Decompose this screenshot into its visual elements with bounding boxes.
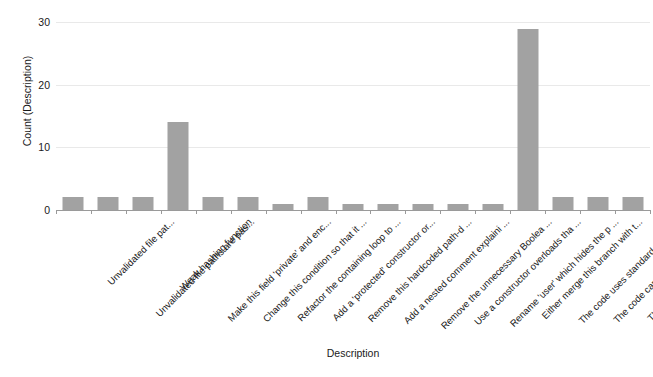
bar[interactable] [308, 197, 329, 210]
y-tick-label: 30 [38, 16, 50, 28]
x-tick-mark [580, 210, 581, 214]
x-axis-title: Description [56, 347, 650, 359]
x-tick-mark [440, 210, 441, 214]
bar-slot [510, 16, 545, 210]
y-tick-label: 10 [38, 141, 50, 153]
x-tick-label-wrapper: The compiler is being instructe ... [645, 216, 653, 323]
bar-slot [475, 16, 510, 210]
bar-slot [580, 16, 615, 210]
x-tick-mark [405, 210, 406, 214]
x-tick-mark [545, 210, 546, 214]
bar[interactable] [517, 29, 538, 210]
x-tick-mark [126, 210, 127, 214]
x-tick-mark [475, 210, 476, 214]
y-axis-title: Count (Description) [21, 11, 33, 191]
bar-slot [161, 16, 196, 210]
bar[interactable] [133, 197, 154, 210]
x-tick-mark [336, 210, 337, 214]
bar-slot [545, 16, 580, 210]
bar[interactable] [203, 197, 224, 210]
bar-slot [266, 16, 301, 210]
x-tick-mark [266, 210, 267, 214]
x-axis-tick-labels: Unvalidated file pat...Unvalidated file … [56, 216, 650, 346]
bar-slot [405, 16, 440, 210]
bar-slot [615, 16, 650, 210]
bar[interactable] [63, 197, 84, 210]
bars-layer [56, 16, 650, 210]
x-tick-mark [231, 210, 232, 214]
x-tick-label: Unvalidated file pat... [106, 216, 177, 287]
x-tick-label-wrapper: Weak hashing function [178, 216, 254, 292]
bar-slot [126, 16, 161, 210]
x-tick-mark [650, 210, 651, 214]
x-tick-mark [56, 210, 57, 214]
bar[interactable] [168, 122, 189, 210]
bar-slot [91, 16, 126, 210]
x-tick-mark [301, 210, 302, 214]
x-axis-tick-marks [56, 210, 650, 215]
x-tick-label-wrapper: Unvalidated file pat... [106, 216, 177, 287]
bar-slot [56, 16, 91, 210]
bar-slot [301, 16, 336, 210]
y-tick-label: 0 [44, 204, 50, 216]
bar[interactable] [98, 197, 119, 210]
x-tick-mark [510, 210, 511, 214]
x-tick-label: Weak hashing function [178, 216, 254, 292]
bar[interactable] [587, 197, 608, 210]
bar[interactable] [552, 197, 573, 210]
bar[interactable] [238, 197, 259, 210]
bar-chart: Count (Description) 0102030 Unvalidated … [0, 0, 653, 377]
x-tick-mark [370, 210, 371, 214]
bar-slot [336, 16, 371, 210]
bar-slot [370, 16, 405, 210]
bar[interactable] [622, 197, 643, 210]
bar-slot [440, 16, 475, 210]
x-tick-label: The compiler is being instructe ... [645, 216, 653, 323]
y-tick-label: 20 [38, 79, 50, 91]
bar-slot [196, 16, 231, 210]
x-tick-mark [615, 210, 616, 214]
x-tick-mark [196, 210, 197, 214]
x-tick-mark [161, 210, 162, 214]
bar-slot [231, 16, 266, 210]
x-tick-mark [91, 210, 92, 214]
